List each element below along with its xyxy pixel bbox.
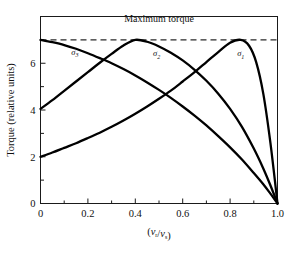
maximum-torque-label: Maximum torque: [124, 13, 194, 24]
x-tick-label: 0.6: [176, 208, 189, 219]
chart-canvas: 00.20.40.60.81.0 0246 σ1σ2σ3 Maximum tor…: [0, 0, 301, 254]
y-tick-label: 2: [30, 152, 35, 163]
curve-sigma-3: [41, 40, 278, 204]
y-tick-label: 4: [30, 105, 36, 116]
curve-label-sigma-1: σ1: [237, 48, 244, 59]
plot-frame: [41, 17, 278, 204]
y-axis-tick-labels: 0246: [30, 58, 36, 209]
x-axis-tick-labels: 00.20.40.60.81.0: [38, 208, 284, 219]
curve-sigma-1: [41, 40, 278, 204]
y-axis-title: Torque (relative units): [5, 63, 17, 157]
y-tick-label: 0: [30, 198, 35, 209]
x-axis-ticks: [41, 199, 278, 204]
y-axis-ticks: [41, 40, 46, 204]
x-axis-title: (vr/vs): [147, 226, 171, 243]
curve-sigma-2: [41, 40, 278, 204]
x-tick-label: 0.4: [129, 208, 143, 219]
x-tick-label: 0.8: [224, 208, 237, 219]
curve-label-sigma-2: σ2: [153, 48, 160, 59]
x-tick-label: 0.2: [81, 208, 94, 219]
x-axis-title-text: (vr/vs): [147, 226, 171, 243]
y-tick-label: 6: [30, 58, 35, 69]
x-tick-label: 1.0: [271, 208, 284, 219]
x-tick-label: 0: [38, 208, 43, 219]
torque-speed-chart-figure: 00.20.40.60.81.0 0246 σ1σ2σ3 Maximum tor…: [0, 0, 301, 254]
